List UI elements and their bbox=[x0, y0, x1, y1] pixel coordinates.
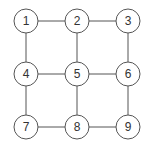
node-4: 4 bbox=[14, 62, 38, 86]
node-3: 3 bbox=[116, 9, 140, 33]
node-9: 9 bbox=[116, 115, 140, 139]
nodes-group: 123456789 bbox=[14, 9, 140, 139]
node-2: 2 bbox=[65, 9, 89, 33]
node-8: 8 bbox=[65, 115, 89, 139]
node-label: 4 bbox=[23, 67, 30, 81]
node-1: 1 bbox=[14, 9, 38, 33]
node-label: 3 bbox=[125, 14, 132, 28]
node-label: 2 bbox=[74, 14, 81, 28]
node-label: 7 bbox=[23, 120, 30, 134]
grid-graph-diagram: 123456789 bbox=[0, 0, 151, 147]
node-label: 8 bbox=[74, 120, 81, 134]
node-label: 5 bbox=[74, 67, 81, 81]
node-5: 5 bbox=[65, 62, 89, 86]
node-label: 9 bbox=[125, 120, 132, 134]
node-7: 7 bbox=[14, 115, 38, 139]
node-label: 6 bbox=[125, 67, 132, 81]
node-6: 6 bbox=[116, 62, 140, 86]
node-label: 1 bbox=[23, 14, 30, 28]
